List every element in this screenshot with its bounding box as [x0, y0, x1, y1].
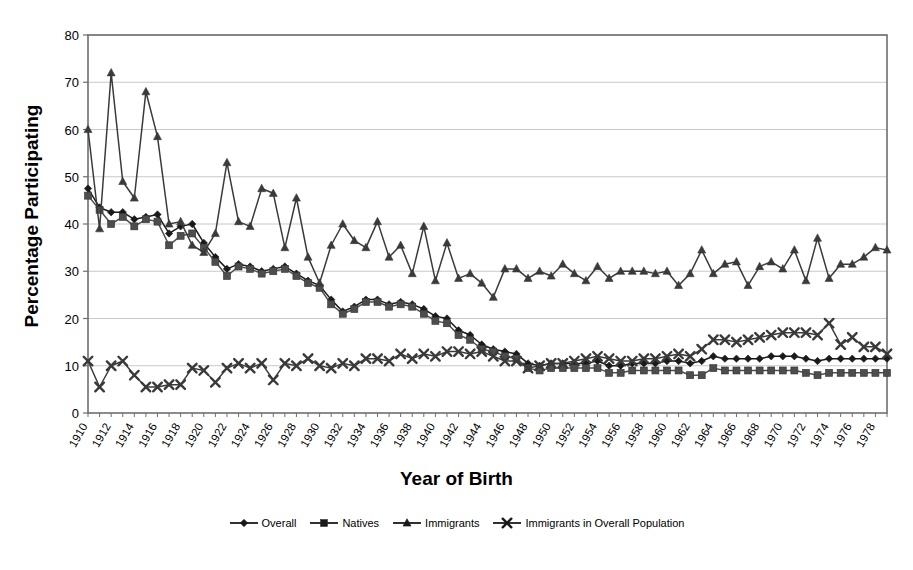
data-point-triangle [698, 246, 706, 253]
data-point-square [768, 367, 775, 374]
data-point-diamond [779, 353, 786, 360]
x-tick-label: 1938 [391, 421, 414, 449]
data-point-square [432, 317, 439, 324]
x-tick-label: 1978 [854, 421, 877, 449]
data-point-diamond [791, 353, 798, 360]
y-tick-label: 40 [65, 217, 79, 232]
legend-item-natives[interactable]: Natives [309, 516, 379, 530]
series-immigrants [84, 69, 891, 301]
data-point-diamond [768, 353, 775, 360]
data-point-square [386, 303, 393, 310]
data-point-triangle [258, 184, 266, 191]
x-tick-label: 1940 [414, 421, 437, 449]
data-point-triangle [304, 253, 312, 260]
chart-legend: OverallNativesImmigrantsImmigrants in Ov… [0, 516, 913, 532]
data-point-square [756, 367, 763, 374]
data-point-square [455, 332, 462, 339]
x-tick-label: 1924 [229, 420, 252, 449]
legend-marker-diamond [229, 516, 259, 530]
data-point-triangle [814, 234, 822, 241]
data-point-square [247, 265, 254, 272]
legend-item-immigrants-in-overall-population[interactable]: Immigrants in Overall Population [492, 516, 684, 530]
data-point-triangle [235, 217, 243, 224]
y-tick-label: 20 [65, 312, 79, 327]
data-point-square [443, 320, 450, 327]
series-line [88, 323, 887, 387]
data-point-square [582, 365, 589, 372]
data-point-square [710, 365, 717, 372]
data-point-square [802, 369, 809, 376]
x-tick-label: 1954 [576, 420, 599, 449]
data-point-square [814, 372, 821, 379]
data-point-square [362, 298, 369, 305]
data-point-triangle [188, 241, 196, 248]
x-tick-label: 1910 [67, 421, 90, 449]
data-point-triangle [559, 260, 567, 267]
x-tick-label: 1914 [113, 420, 136, 449]
x-tick-label: 1946 [483, 421, 506, 449]
data-point-diamond [872, 355, 879, 362]
data-point-diamond [84, 185, 91, 192]
data-point-star [836, 340, 845, 349]
data-point-square [826, 369, 833, 376]
data-point-star [211, 378, 220, 387]
data-point-diamond [240, 519, 247, 526]
data-point-star [269, 376, 278, 385]
legend-item-immigrants[interactable]: Immigrants [392, 516, 479, 530]
data-point-square [884, 369, 891, 376]
y-tick-label: 50 [65, 170, 79, 185]
y-tick-label: 30 [65, 264, 79, 279]
x-tick-label: 1932 [321, 421, 344, 449]
data-point-square [270, 268, 277, 275]
data-point-triangle [177, 217, 185, 224]
data-point-star [234, 359, 243, 368]
data-point-diamond [802, 355, 809, 362]
data-point-triangle [142, 87, 150, 94]
data-point-square [594, 365, 601, 372]
data-point-triangle [119, 177, 127, 184]
data-point-star [246, 364, 255, 373]
gridlines-group [88, 35, 887, 366]
legend-marker-square [309, 516, 339, 530]
data-point-star [408, 354, 417, 363]
y-tick-label: 70 [65, 75, 79, 90]
y-axis-ticks-group: 01020304050607080 [65, 28, 88, 421]
data-point-square [652, 367, 659, 374]
x-tick-label: 1916 [136, 421, 159, 449]
data-point-triangle [211, 229, 219, 236]
data-point-square [321, 520, 328, 527]
legend-item-overall[interactable]: Overall [229, 516, 297, 530]
y-axis-title: Percentage Participating [21, 66, 43, 366]
data-point-square [131, 223, 138, 230]
data-point-star [304, 354, 313, 363]
x-tick-label: 1950 [530, 421, 553, 449]
data-point-square [258, 270, 265, 277]
data-point-star [848, 333, 857, 342]
data-point-diamond [860, 355, 867, 362]
data-point-star [95, 383, 104, 392]
data-point-star [825, 319, 834, 328]
x-tick-label: 1934 [344, 420, 367, 449]
data-point-square [467, 336, 474, 343]
data-point-star [697, 345, 706, 354]
data-point-square [860, 369, 867, 376]
data-point-square [177, 232, 184, 239]
x-axis-title: Year of Birth [0, 468, 913, 490]
legend-item-label: Immigrants [425, 517, 479, 529]
x-axis-tick-labels-group: 1910191219141916191819201922192419261928… [67, 420, 878, 449]
data-point-triangle [732, 258, 740, 265]
series-line [88, 196, 887, 376]
data-point-square [791, 367, 798, 374]
series-line [88, 73, 887, 297]
data-point-square [85, 192, 92, 199]
data-point-diamond [154, 211, 161, 218]
x-tick-label: 1970 [761, 421, 784, 449]
data-point-square [698, 372, 705, 379]
data-point-star [118, 357, 127, 366]
legend-item-label: Overall [262, 517, 297, 529]
data-point-square [629, 367, 636, 374]
data-point-diamond [744, 355, 751, 362]
data-point-triangle [96, 224, 104, 231]
x-tick-label: 1956 [599, 421, 622, 449]
x-tick-label: 1920 [182, 421, 205, 449]
